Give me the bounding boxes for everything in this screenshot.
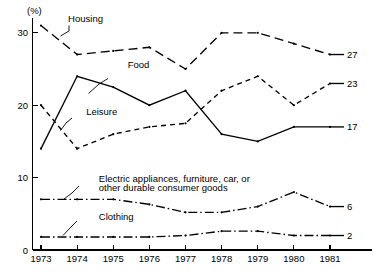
leader-housing — [61, 26, 70, 37]
data-point — [112, 236, 114, 238]
data-point — [221, 211, 223, 213]
data-point — [257, 75, 259, 77]
y-axis-unit-label: (%) — [27, 5, 42, 16]
data-point — [221, 32, 223, 34]
data-point — [40, 198, 42, 200]
data-point — [148, 104, 150, 106]
data-point — [76, 75, 78, 77]
data-point — [76, 236, 78, 238]
y-axis-ticks: 30 20 10 0 — [17, 27, 38, 255]
data-point — [257, 32, 259, 34]
data-point — [221, 133, 223, 135]
data-point — [184, 211, 186, 213]
data-point — [221, 230, 223, 232]
end-label-4: 2 — [347, 230, 352, 241]
x-tick-label-1981: 1981 — [319, 253, 340, 264]
chart-container: (%) 30 20 10 0 1973197419751976197719781… — [0, 0, 378, 275]
data-point — [257, 205, 259, 207]
data-point — [112, 198, 114, 200]
series-path-3 — [41, 192, 330, 212]
data-point — [40, 148, 42, 150]
data-point — [184, 90, 186, 92]
y-tick-label-10: 10 — [17, 172, 28, 183]
data-point — [40, 24, 42, 26]
series-group — [40, 24, 344, 238]
annotation-5: Clothing — [99, 211, 134, 222]
y-tick-label-30: 30 — [17, 27, 28, 38]
data-point — [184, 122, 186, 124]
end-label-0: 27 — [347, 49, 358, 60]
annotation-2: Leisure — [86, 106, 117, 117]
data-point — [148, 236, 150, 238]
data-point — [257, 230, 259, 232]
data-point — [293, 43, 295, 45]
data-point — [112, 86, 114, 88]
annotation-4: other durable consumer goods — [99, 182, 228, 193]
data-point — [184, 234, 186, 236]
x-tick-label-1977: 1977 — [175, 253, 196, 264]
x-tick-label-1979: 1979 — [247, 253, 268, 264]
series-path-0 — [41, 26, 330, 69]
x-tick-label-1973: 1973 — [30, 253, 51, 264]
x-tick-label-1975: 1975 — [103, 253, 124, 264]
data-point — [40, 236, 42, 238]
series-path-1 — [41, 76, 330, 148]
y-tick-label-20: 20 — [17, 100, 28, 111]
series-path-2 — [41, 76, 330, 148]
end-label-1: 17 — [347, 121, 358, 132]
data-point — [112, 133, 114, 135]
data-point — [293, 191, 295, 193]
data-point — [293, 126, 295, 128]
x-tick-label-1974: 1974 — [67, 253, 88, 264]
data-point — [148, 46, 150, 48]
data-point — [76, 148, 78, 150]
data-point — [184, 68, 186, 70]
data-point — [293, 234, 295, 236]
annotation-1: Food — [128, 59, 150, 70]
data-point — [112, 50, 114, 52]
series-end-labels: 27172362 — [347, 49, 358, 241]
annotation-0: Housing — [68, 13, 103, 24]
line-chart: (%) 30 20 10 0 1973197419751976197719781… — [0, 0, 378, 275]
x-axis-ticks: 197319741975197619771978197919801981 — [30, 245, 340, 264]
data-point — [148, 126, 150, 128]
series-annotations: HousingFoodLeisureElectric appliances, f… — [68, 13, 250, 222]
leader-clothing — [63, 221, 77, 236]
data-point — [221, 90, 223, 92]
end-label-3: 6 — [347, 201, 352, 212]
data-point — [40, 104, 42, 106]
x-tick-label-1978: 1978 — [211, 253, 232, 264]
annotation-leader-lines — [61, 26, 109, 236]
leader-durables — [64, 186, 79, 199]
data-point — [76, 53, 78, 55]
data-point — [293, 104, 295, 106]
x-tick-label-1980: 1980 — [283, 253, 304, 264]
leader-leisure — [61, 118, 73, 131]
y-tick-label-0: 0 — [23, 245, 28, 256]
data-point — [76, 198, 78, 200]
end-label-2: 23 — [347, 78, 358, 89]
x-tick-label-1976: 1976 — [139, 253, 160, 264]
data-point — [148, 203, 150, 205]
data-point — [257, 140, 259, 142]
